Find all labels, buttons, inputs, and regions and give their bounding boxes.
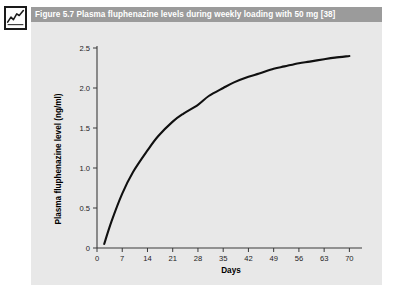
line-chart-icon (4, 6, 27, 30)
y-tick-label: 1.0 (79, 164, 90, 173)
y-tick-label: 1.5 (79, 124, 90, 133)
x-tick-label: 42 (244, 254, 252, 263)
x-tick-label: 70 (345, 254, 353, 263)
data-series-line (104, 56, 349, 244)
y-tick-label: 2.0 (79, 84, 90, 93)
y-tick-label: 0.5 (79, 204, 90, 213)
y-tick-label: 0 (86, 244, 90, 253)
x-tick-label: 49 (269, 254, 277, 263)
x-axis-title: Days (221, 266, 241, 275)
x-tick-label: 14 (143, 254, 151, 263)
y-tick-label: 2.5 (79, 44, 90, 53)
x-tick-label: 63 (320, 254, 328, 263)
x-axis: 07142128354249566370 (95, 248, 362, 263)
figure-panel: 00.51.01.52.02.5 07142128354249566370 Pl… (31, 22, 382, 285)
figure-caption-text: Figure 5.7 Plasma fluphenazine levels du… (35, 10, 335, 19)
x-tick-label: 0 (95, 254, 99, 263)
x-tick-label: 21 (168, 254, 176, 263)
x-tick-label: 28 (194, 254, 202, 263)
x-tick-label: 56 (295, 254, 303, 263)
figure-caption-bar: Figure 5.7 Plasma fluphenazine levels du… (31, 7, 382, 22)
y-axis: 00.51.01.52.02.5 (79, 44, 97, 253)
x-tick-label: 35 (219, 254, 227, 263)
y-axis-title: Plasma fluphenazine level (ng/ml) (54, 93, 63, 224)
x-tick-label: 7 (120, 254, 124, 263)
chart-plot-area: 00.51.01.52.02.5 07142128354249566370 Pl… (31, 22, 382, 285)
